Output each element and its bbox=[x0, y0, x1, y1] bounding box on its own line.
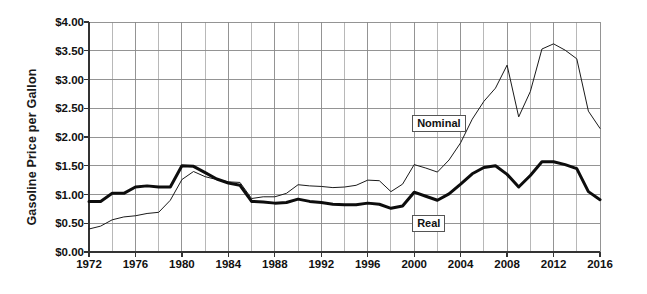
x-tick-label: 1972 bbox=[76, 258, 102, 270]
x-tick-label: 2000 bbox=[401, 258, 427, 270]
x-tick-label: 2012 bbox=[541, 258, 567, 270]
x-tick-label: 1988 bbox=[262, 258, 288, 270]
x-tick-label: 2004 bbox=[448, 258, 474, 270]
x-tick-label: 1976 bbox=[123, 258, 149, 270]
x-tick-label: 2008 bbox=[494, 258, 520, 270]
x-tick-label: 1996 bbox=[355, 258, 381, 270]
x-tick-label: 2016 bbox=[587, 258, 613, 270]
series-annotation-nominal: Nominal bbox=[412, 115, 465, 132]
x-tick-label: 1980 bbox=[169, 258, 195, 270]
gasoline-price-chart: $0.00$0.50$1.00$1.50$2.00$2.50$3.00$3.50… bbox=[0, 0, 647, 294]
series-annotation-real: Real bbox=[412, 215, 445, 232]
x-tick-label: 1984 bbox=[216, 258, 242, 270]
x-tick-label: 1992 bbox=[308, 258, 334, 270]
chart-plot-area bbox=[0, 0, 647, 294]
